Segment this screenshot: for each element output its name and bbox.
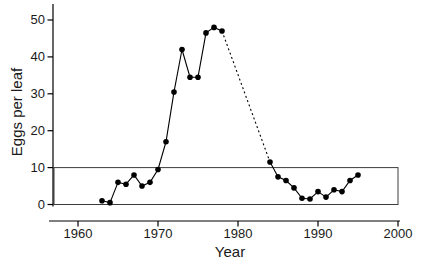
data-point (171, 89, 177, 95)
data-point (275, 174, 281, 180)
data-point (315, 189, 321, 195)
data-point (267, 159, 273, 165)
data-point (155, 167, 161, 173)
x-axis-label: Year (215, 243, 245, 260)
data-point (187, 74, 193, 80)
series-line-eggs-per-leaf-gap-interpolated (222, 31, 270, 162)
x-tick-label: 1960 (64, 226, 93, 241)
eggs-per-leaf-line-chart: 0102030405019601970198019902000 Eggs per… (0, 0, 425, 266)
data-point (211, 25, 217, 31)
data-point (299, 195, 305, 201)
data-point (147, 180, 153, 186)
data-point (179, 47, 185, 53)
x-tick-label: 1990 (304, 226, 333, 241)
data-point (131, 172, 137, 178)
series-line-eggs-per-leaf-observed-early (102, 27, 222, 202)
y-tick-label: 20 (31, 123, 45, 138)
data-point (115, 180, 121, 186)
data-point (323, 194, 329, 200)
data-point (107, 200, 113, 206)
data-point (99, 198, 105, 204)
data-series-layer (99, 25, 361, 206)
data-point (219, 28, 225, 34)
x-tick-label: 1980 (224, 226, 253, 241)
y-tick-label: 10 (31, 160, 45, 175)
y-axis-label: Eggs per leaf (8, 67, 25, 156)
data-point (339, 189, 345, 195)
y-tick-label: 0 (38, 197, 45, 212)
data-point (331, 187, 337, 193)
data-point (203, 30, 209, 36)
axes-layer: 0102030405019601970198019902000 (31, 4, 413, 241)
x-tick-label: 1970 (144, 226, 173, 241)
data-point (307, 196, 313, 202)
data-point (163, 139, 169, 145)
y-tick-label: 30 (31, 86, 45, 101)
x-tick-label: 2000 (384, 226, 413, 241)
data-point (283, 178, 289, 184)
data-point (195, 74, 201, 80)
data-point (139, 183, 145, 189)
y-tick-label: 40 (31, 49, 45, 64)
figure: 0102030405019601970198019902000 Eggs per… (0, 0, 425, 266)
y-tick-label: 50 (31, 12, 45, 27)
data-point (355, 172, 361, 178)
data-point (123, 181, 129, 187)
data-point (347, 178, 353, 184)
data-point (291, 185, 297, 191)
